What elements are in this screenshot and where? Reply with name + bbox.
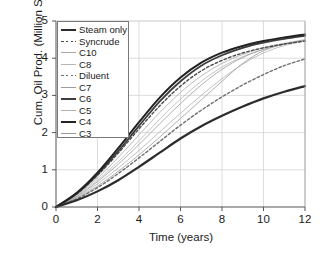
y-tick-label: 4 bbox=[30, 51, 48, 63]
x-tick-label: 12 bbox=[295, 213, 315, 225]
legend-item[interactable]: Diluent bbox=[60, 70, 128, 82]
legend-item-label: Diluent bbox=[79, 70, 109, 81]
legend-line-swatch-icon bbox=[60, 128, 77, 139]
legend-item[interactable]: C10 bbox=[60, 47, 128, 59]
legend-item[interactable]: C5 bbox=[60, 105, 128, 117]
x-tick-label: 4 bbox=[129, 213, 149, 225]
legend-item-label: Syncrude bbox=[79, 36, 120, 47]
x-tick-label: 2 bbox=[88, 213, 108, 225]
x-tick-label: 0 bbox=[46, 213, 66, 225]
legend-item-label: C7 bbox=[79, 82, 91, 93]
legend-item-label: C3 bbox=[79, 128, 91, 139]
x-tick-label: 10 bbox=[254, 213, 274, 225]
legend-item[interactable]: C6 bbox=[60, 93, 128, 105]
legend-item[interactable]: C4 bbox=[60, 116, 128, 128]
legend-line-swatch-icon bbox=[60, 93, 77, 104]
legend-line-swatch-icon bbox=[60, 82, 77, 93]
legend-line-swatch-icon bbox=[60, 70, 77, 81]
chart-figure: Cum. Oil Prod. (Million STB) Time (years… bbox=[0, 0, 326, 255]
legend-item-label: Steam only bbox=[79, 24, 127, 35]
y-tick-label: 3 bbox=[30, 88, 48, 100]
legend-item-label: C5 bbox=[79, 105, 91, 116]
legend-item-label: C10 bbox=[79, 47, 97, 58]
legend-item[interactable]: C3 bbox=[60, 128, 128, 140]
legend-item-label: C6 bbox=[79, 93, 91, 104]
legend-line-swatch-icon bbox=[60, 36, 77, 47]
legend-line-swatch-icon bbox=[60, 24, 77, 35]
legend: Steam onlySyncrudeC10C8DiluentC7C6C5C4C3 bbox=[57, 21, 129, 138]
x-tick-label: 6 bbox=[171, 213, 191, 225]
y-tick-label: 0 bbox=[30, 200, 48, 212]
legend-item[interactable]: Steam only bbox=[60, 24, 128, 36]
legend-item-label: C4 bbox=[79, 116, 91, 127]
x-tick-label: 8 bbox=[212, 213, 232, 225]
legend-item-label: C8 bbox=[79, 59, 91, 70]
legend-line-swatch-icon bbox=[60, 116, 77, 127]
legend-item[interactable]: C8 bbox=[60, 59, 128, 71]
legend-line-swatch-icon bbox=[60, 105, 77, 116]
y-tick-label: 2 bbox=[30, 126, 48, 138]
x-axis-title: Time (years) bbox=[56, 231, 306, 243]
legend-line-swatch-icon bbox=[60, 59, 77, 70]
legend-line-swatch-icon bbox=[60, 47, 77, 58]
legend-item[interactable]: Syncrude bbox=[60, 36, 128, 48]
legend-item[interactable]: C7 bbox=[60, 82, 128, 94]
y-tick-label: 5 bbox=[30, 14, 48, 26]
y-tick-label: 1 bbox=[30, 163, 48, 175]
